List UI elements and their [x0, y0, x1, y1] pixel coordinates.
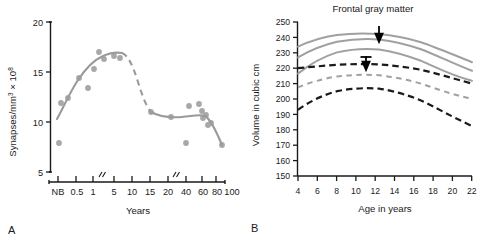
- panel-a-xlabel-80: 80: [212, 187, 222, 197]
- panel-a-xaxis-title: Years: [126, 205, 150, 216]
- curve-female-lower-dashed-black: [298, 88, 472, 126]
- panel-b-ylabel-230: 230: [276, 48, 291, 58]
- panel-b-xlabel-22: 22: [467, 186, 477, 196]
- panel-b-yaxis-title: Volume in cubic cm: [250, 64, 261, 147]
- panel-b-ylabel-160: 160: [276, 156, 291, 166]
- panel-b-svg: Frontal gray matter Volume in cubic cm 2…: [243, 0, 486, 240]
- data-point: [56, 140, 62, 146]
- panel-a-xlabel-5: 5: [111, 187, 116, 197]
- panel-b-xlabel-8: 8: [334, 186, 339, 196]
- panel-a-ylabel-15: 15: [33, 68, 43, 78]
- panel-a-ylabel: Synapses/mm3 × 108: [7, 67, 19, 157]
- curve-female-upper-dashed-black: [298, 64, 472, 84]
- panel-a-xticks: [58, 176, 216, 182]
- data-point: [117, 55, 123, 61]
- panel-a-xlabel-100: 100: [224, 187, 239, 197]
- panel-a-ylabel-5: 5: [38, 168, 43, 178]
- panel-a-axis-break-2: [173, 172, 180, 177]
- panel-a-scatter-points: [56, 49, 225, 148]
- data-point: [91, 66, 97, 72]
- data-point: [85, 85, 91, 91]
- panel-b-ylabel-190: 190: [276, 110, 291, 120]
- panel-a-xlabel-05: 0.5: [71, 187, 84, 197]
- panel-a-letter: A: [8, 224, 16, 236]
- panel-b-letter: B: [251, 222, 258, 234]
- panel-b-ylabel-240: 240: [276, 33, 291, 43]
- data-point: [186, 103, 192, 109]
- panel-b-xlabel-10: 10: [351, 186, 361, 196]
- data-point: [196, 101, 202, 107]
- panel-b-xlabel-12: 12: [370, 186, 380, 196]
- panel-b-xaxis-title: Age in years: [358, 203, 412, 214]
- panel-a-y-axis: [49, 22, 52, 172]
- panel-a-xlabel-40: 40: [181, 187, 191, 197]
- panel-b: Frontal gray matter Volume in cubic cm 2…: [243, 0, 486, 240]
- panel-a-ylabel-10: 10: [33, 118, 43, 128]
- panel-a: Synapses/mm3 × 108 20 15 10 5: [0, 0, 243, 240]
- panel-a-xlabel-15: 15: [145, 187, 155, 197]
- panel-a-axis-break-1: [99, 172, 106, 177]
- panel-a-xlabel-10: 10: [127, 187, 137, 197]
- panel-b-ylabel-180: 180: [276, 125, 291, 135]
- panel-b-ylabel-170: 170: [276, 140, 291, 150]
- curve-female-mid-dashed-gray: [298, 75, 472, 99]
- panel-a-xlabel-1: 1: [90, 187, 95, 197]
- panel-b-ylabel-250: 250: [276, 17, 291, 27]
- panel-a-fit-solid-plateau: [151, 112, 222, 145]
- figure-container: Synapses/mm3 × 108 20 15 10 5: [0, 0, 486, 240]
- panel-b-xlabel-14: 14: [390, 186, 400, 196]
- panel-a-xlabel-60: 60: [198, 187, 208, 197]
- data-point: [96, 49, 102, 55]
- panel-a-xlabel-nb: NB: [52, 187, 65, 197]
- data-point: [183, 140, 189, 146]
- panel-b-xlabel-6: 6: [315, 186, 320, 196]
- panel-b-title: Frontal gray matter: [332, 3, 414, 14]
- panel-b-ylabel-150: 150: [276, 171, 291, 181]
- panel-b-curves: [298, 33, 472, 126]
- panel-b-ylabel-200: 200: [276, 94, 291, 104]
- svg-text:Synapses/mm3 × 108: Synapses/mm3 × 108: [7, 67, 19, 157]
- panel-a-xlabel-20: 20: [163, 187, 173, 197]
- panel-b-ylabel-210: 210: [276, 79, 291, 89]
- panel-b-xlabel-20: 20: [448, 186, 458, 196]
- panel-b-xticks: [298, 176, 472, 181]
- panel-b-xlabel-16: 16: [409, 186, 419, 196]
- panel-a-svg: Synapses/mm3 × 108 20 15 10 5: [0, 0, 243, 240]
- panel-b-xlabel-18: 18: [428, 186, 438, 196]
- panel-a-ylabel-20: 20: [33, 18, 43, 28]
- panel-a-fit-dashed-decline: [122, 53, 151, 112]
- peak-arrow-lower: [361, 56, 372, 70]
- panel-b-xlabel-4: 4: [296, 186, 301, 196]
- panel-b-ylabel-220: 220: [276, 63, 291, 73]
